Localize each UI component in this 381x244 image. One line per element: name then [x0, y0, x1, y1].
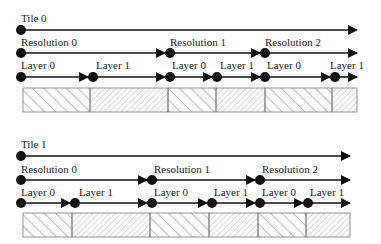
t0-layer-dot [260, 72, 270, 82]
t1-layer-dot [147, 198, 157, 208]
t0-res-2-dot [260, 48, 270, 58]
t1-res-1-label: Resolution 1 [154, 163, 210, 175]
t0-packet-bar [23, 88, 357, 112]
t0-layer-dot [88, 72, 98, 82]
t1-layer-4-label: Layer 0 [262, 186, 296, 198]
t1-layer-2-label: Layer 0 [154, 186, 188, 198]
t0-res-2-label: Resolution 2 [265, 36, 321, 48]
t1-layer-dot [255, 198, 265, 208]
t1-res-2-dot [255, 175, 265, 185]
tile-1-label: Tile 1 [21, 138, 47, 150]
t1-res-0-label: Resolution 0 [21, 163, 77, 175]
t0-res-0-dot [16, 48, 26, 58]
t0-packet-4 [265, 88, 332, 112]
t1-packet-5 [306, 213, 350, 237]
tile-0-dot [16, 25, 26, 35]
t0-layer-5-label: Layer 1 [330, 59, 364, 71]
t1-res-2-label: Resolution 2 [262, 163, 318, 175]
t0-layer-0-label: Layer 0 [21, 59, 55, 71]
t1-packet-2 [150, 213, 209, 237]
t0-res-1-label: Resolution 1 [170, 36, 226, 48]
tile-0-label: Tile 0 [21, 12, 47, 24]
t0-layer-dot [16, 72, 26, 82]
t0-packet-0 [23, 88, 90, 112]
t0-layer-2-label: Layer 0 [172, 59, 206, 71]
t1-res-1-dot [147, 175, 157, 185]
t1-packet-3 [209, 213, 258, 237]
t1-packet-4 [258, 213, 306, 237]
t0-res-0-label: Resolution 0 [21, 36, 77, 48]
t1-layer-dot [16, 198, 26, 208]
t0-layer-3-label: Layer 1 [220, 59, 254, 71]
t1-layer-dot [303, 198, 313, 208]
t0-layer-4-label: Layer 0 [267, 59, 301, 71]
t0-layer-dot [212, 72, 222, 82]
tile-codestream-diagram: Tile 0 Resolution 0 Resolution 1 Resolut… [0, 0, 381, 244]
tile-1-dot [16, 151, 26, 161]
t1-layer-0-label: Layer 0 [21, 186, 55, 198]
t1-layer-1-label: Layer 1 [79, 186, 113, 198]
t1-packet-1 [72, 213, 150, 237]
t0-layer-dot [330, 72, 340, 82]
t1-res-0-dot [16, 175, 26, 185]
t1-layer-dot [70, 198, 80, 208]
t1-layer-dot [207, 198, 217, 208]
tile-0-group: Tile 0 Resolution 0 Resolution 1 Resolut… [16, 12, 364, 112]
t0-layer-1-label: Layer 1 [96, 59, 130, 71]
t0-res-1-dot [165, 48, 175, 58]
t0-layer-dot [165, 72, 175, 82]
t1-packet-bar [23, 213, 350, 237]
t0-packet-3 [216, 88, 265, 112]
t0-packet-2 [168, 88, 216, 112]
tile-1-group: Tile 1 Resolution 0 Resolution 1 Resolut… [16, 138, 350, 237]
t1-layer-5-label: Layer 1 [310, 186, 344, 198]
t0-packet-5 [332, 88, 357, 112]
t1-packet-0 [23, 213, 72, 237]
t0-packet-1 [90, 88, 168, 112]
t1-layer-3-label: Layer 1 [214, 186, 248, 198]
